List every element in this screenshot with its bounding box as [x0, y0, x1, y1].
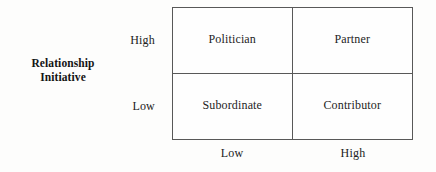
matrix-cell-partner: Partner: [293, 8, 413, 74]
x-axis-tick-low: Low: [172, 146, 292, 161]
x-axis-tick-high: High: [293, 146, 413, 161]
matrix-cell-label: Politician: [209, 32, 257, 48]
matrix-cell-label: Subordinate: [202, 98, 262, 114]
matrix-grid: Politician Partner Subordinate Contribut…: [172, 7, 413, 140]
matrix-cell-label: Contributor: [323, 98, 381, 114]
y-axis-title-line-1: Relationship: [8, 56, 118, 70]
y-axis-title: Relationship Initiative: [8, 56, 118, 84]
y-axis-tick-high: High: [107, 33, 155, 48]
matrix-cell-contributor: Contributor: [293, 74, 413, 140]
y-axis-title-line-2: Initiative: [8, 70, 118, 84]
matrix-cell-politician: Politician: [173, 8, 293, 74]
matrix-cell-label: Partner: [334, 32, 370, 48]
relationship-initiative-matrix-figure: Relationship Initiative High Low Politic…: [0, 0, 436, 172]
y-axis-tick-low: Low: [107, 99, 155, 114]
matrix-cell-subordinate: Subordinate: [173, 74, 293, 140]
